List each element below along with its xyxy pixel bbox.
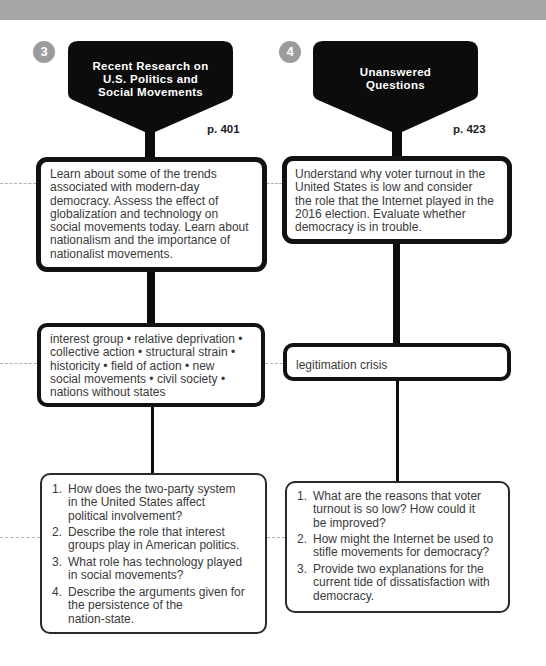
dashed-connector <box>0 183 36 184</box>
key-terms-box: legitimation crisis <box>283 343 511 381</box>
step-number-badge: 3 <box>33 41 55 63</box>
page-reference[interactable]: p. 423 <box>453 123 486 135</box>
key-terms-box: interest group • relative deprivation • … <box>37 323 265 407</box>
text-line: nationalist movements. <box>50 248 262 261</box>
page-reference[interactable]: p. 401 <box>207 123 240 135</box>
question-number: 1. <box>297 490 307 503</box>
question-number: 3. <box>52 556 62 569</box>
text-line: legitimation crisis <box>296 359 507 372</box>
question-number: 2. <box>52 526 62 539</box>
section-title: Recent Research on U.S. Politics and Soc… <box>68 60 233 99</box>
text-line: democracy. Assess the effect of <box>50 195 262 208</box>
text-line: How might the Internet be used to <box>313 533 508 546</box>
text-line: social movements today. Learn about <box>50 221 262 234</box>
text-line: the role that the Internet played in the <box>295 195 507 208</box>
dashed-connector <box>267 537 285 538</box>
section-title-line: Recent Research on <box>68 60 233 73</box>
question-item: 1. How does the two-party system in the … <box>42 483 265 523</box>
question-item: 3. Provide two explanations for the curr… <box>287 563 508 603</box>
text-line: in social movements? <box>68 569 265 582</box>
text-line: interest group • relative deprivation • <box>50 333 261 346</box>
connector-stem <box>392 130 402 158</box>
text-line: associated with modern-day <box>50 181 262 194</box>
question-item: 4. Describe the arguments given for the … <box>42 586 265 626</box>
text-line: nations without states <box>50 386 261 399</box>
text-line: United States is low and consider <box>295 181 507 194</box>
text-line: 2016 election. Evaluate whether <box>295 208 507 221</box>
text-line: Provide two explanations for the <box>313 563 508 576</box>
text-line: the persistence of the <box>68 599 265 612</box>
question-number: 1. <box>52 483 62 496</box>
question-number: 2. <box>297 533 307 546</box>
text-line: Describe the role that interest <box>68 526 265 539</box>
question-number: 4. <box>52 586 62 599</box>
text-line: nationalism and the importance of <box>50 234 262 247</box>
text-line: social movements • civil society • <box>50 373 261 386</box>
connector-stem <box>147 269 155 325</box>
section-title-line: U.S. Politics and <box>68 73 233 86</box>
text-line: Learn about some of the trends <box>50 168 262 181</box>
text-line: nation-state. <box>68 613 265 626</box>
text-line: groups play in American politics. <box>68 539 265 552</box>
text-line: Understand why voter turnout in the <box>295 168 507 181</box>
learning-objectives-box: Understand why voter turnout in the Unit… <box>282 156 512 244</box>
text-line: How does the two-party system <box>68 483 265 496</box>
section-title-line: Social Movements <box>68 86 233 99</box>
question-number: 3. <box>297 563 307 576</box>
text-line: democracy. <box>313 590 508 603</box>
connector-stem <box>145 130 155 159</box>
dashed-connector <box>0 363 37 364</box>
review-questions-box: 1. How does the two-party system in the … <box>40 473 267 634</box>
section-title: Unanswered Questions <box>313 66 478 92</box>
text-line: What role has technology played <box>68 556 265 569</box>
connector-stem <box>393 241 400 345</box>
dashed-connector <box>0 537 40 538</box>
text-line: democracy is in trouble. <box>295 221 507 234</box>
connector-stem <box>396 379 399 483</box>
text-line: current tide of dissatisfaction with <box>313 576 508 589</box>
question-item: 2. Describe the role that interest group… <box>42 526 265 553</box>
learning-objectives-box: Learn about some of the trends associate… <box>36 157 267 272</box>
section-title-line: Questions <box>313 79 478 92</box>
text-line: collective action • structural strain • <box>50 346 261 359</box>
step-number-badge: 4 <box>279 41 301 63</box>
question-item: 3. What role has technology played in so… <box>42 556 265 583</box>
text-line: Describe the arguments given for <box>68 586 265 599</box>
dashed-connector <box>267 183 282 184</box>
text-line: political involvement? <box>68 510 265 523</box>
text-line: be improved? <box>313 517 508 530</box>
dashed-connector <box>265 363 283 364</box>
text-line: in the United States affect <box>68 496 265 509</box>
connector-stem <box>151 405 154 475</box>
section-title-line: Unanswered <box>313 66 478 79</box>
text-line: globalization and technology on <box>50 208 262 221</box>
question-item: 1. What are the reasons that voter turno… <box>287 490 508 530</box>
review-questions-box: 1. What are the reasons that voter turno… <box>285 481 510 613</box>
text-line: turnout is so low? How could it <box>313 503 508 516</box>
text-line: historicity • field of action • new <box>50 360 261 373</box>
text-line: stifle movements for democracy? <box>313 546 508 559</box>
text-line: What are the reasons that voter <box>313 490 508 503</box>
question-item: 2. How might the Internet be used to sti… <box>287 533 508 560</box>
